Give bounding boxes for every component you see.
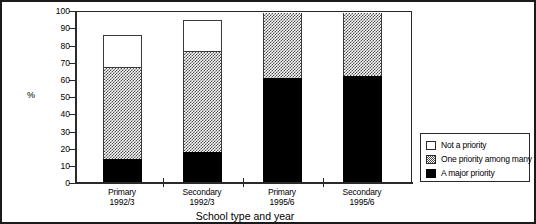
bar-primary-1992-3 (103, 11, 142, 183)
y-tick-label-80: 80 (42, 42, 70, 51)
bar-segment-a-major-priority (103, 159, 142, 183)
x-axis-label-secondary-1995-6: Secondary 1995/6 (317, 187, 407, 207)
bar-secondary-1992-3 (183, 11, 222, 183)
bar-segment-a-major-priority (263, 78, 302, 183)
x-axis-label-line2: 1995/6 (317, 197, 407, 207)
x-axis-separator-2 (243, 178, 244, 187)
bar-segment-one-priority-among-many (103, 68, 142, 159)
chart-image-frame: 100 90 80 70 60 50 40 30 20 10 0 % (0, 0, 536, 224)
y-tick-label-50: 50 (42, 93, 70, 102)
x-axis-label-line2: 1995/6 (237, 197, 327, 207)
bar-secondary-1995-6 (343, 11, 382, 183)
x-axis-line (76, 182, 413, 184)
y-tick-0 (69, 183, 76, 184)
y-tick-60 (69, 80, 76, 81)
y-tick-40 (69, 114, 76, 115)
x-axis-label-line1: Secondary (317, 187, 407, 197)
bar-segment-not-a-priority (183, 20, 222, 52)
x-axis-label-line1: Primary (77, 187, 167, 197)
y-tick-90 (69, 28, 76, 29)
bar-segment-one-priority-among-many (263, 13, 302, 78)
x-axis-label-line1: Secondary (157, 187, 247, 197)
bar-segment-a-major-priority (343, 76, 382, 183)
x-axis-separator-1 (163, 178, 164, 187)
y-tick-50 (69, 97, 76, 98)
y-tick-label-30: 30 (42, 128, 70, 137)
x-axis-title: School type and year (135, 210, 355, 222)
y-tick-80 (69, 46, 76, 47)
y-tick-30 (69, 132, 76, 133)
bar-segment-one-priority-among-many (343, 13, 382, 76)
legend-item-a-major-priority: A major priority (426, 166, 529, 180)
x-axis-separator-3 (323, 178, 324, 187)
x-axis-label-primary-1992-3: Primary 1992/3 (77, 187, 167, 207)
y-tick-label-20: 20 (42, 145, 70, 154)
y-tick-100 (69, 11, 76, 12)
y-tick-label-0: 0 (42, 179, 70, 188)
y-tick-label-70: 70 (42, 59, 70, 68)
y-tick-70 (69, 63, 76, 64)
bar-segment-not-a-priority (103, 35, 142, 68)
bar-primary-1995-6 (263, 11, 302, 183)
bar-segment-one-priority-among-many (183, 52, 222, 152)
x-axis-label-secondary-1992-3: Secondary 1992/3 (157, 187, 247, 207)
legend-swatch-checkered-square-icon (426, 155, 436, 164)
legend-label: One priority among many (441, 155, 532, 164)
y-tick-label-60: 60 (42, 76, 70, 85)
y-tick-label-10: 10 (42, 162, 70, 171)
y-tick-label-40: 40 (42, 110, 70, 119)
y-tick-label-100: 100 (42, 7, 70, 16)
x-axis-label-line2: 1992/3 (157, 197, 247, 207)
chart-legend: Not a priority One priority among many A… (420, 133, 530, 182)
legend-label: Not a priority (441, 141, 486, 150)
x-axis-label-line1: Primary (237, 187, 327, 197)
y-tick-20 (69, 149, 76, 150)
y-axis-title: % (27, 90, 35, 100)
x-axis-label-line2: 1992/3 (77, 197, 167, 207)
legend-label: A major priority (441, 169, 494, 178)
y-tick-label-90: 90 (42, 24, 70, 33)
legend-item-not-a-priority: Not a priority (426, 138, 529, 152)
x-axis-label-primary-1995-6: Primary 1995/6 (237, 187, 327, 207)
legend-swatch-white-square-icon (426, 141, 436, 150)
legend-swatch-black-square-icon (426, 169, 436, 178)
bar-segment-a-major-priority (183, 152, 222, 183)
legend-item-one-priority-among-many: One priority among many (426, 152, 529, 166)
y-tick-10 (69, 166, 76, 167)
